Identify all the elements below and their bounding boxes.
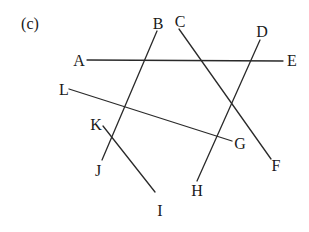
segment-cf: [179, 29, 271, 159]
point-label-j: J: [95, 162, 101, 179]
point-label-h: H: [191, 182, 203, 199]
point-label-i: I: [157, 202, 162, 219]
point-label-d: D: [256, 23, 268, 40]
segment-ae: [87, 60, 283, 61]
panel-label: (c): [21, 15, 39, 33]
point-label-e: E: [287, 52, 297, 69]
point-label-k: K: [90, 116, 102, 133]
line-segments-diagram: (c) A B C D E F G H I J K L: [0, 0, 309, 232]
point-label-g: G: [234, 135, 246, 152]
segment-ki: [103, 126, 155, 192]
point-label-f: F: [272, 157, 281, 174]
point-label-l: L: [59, 81, 69, 98]
point-label-b: B: [153, 15, 164, 32]
point-label-a: A: [73, 52, 85, 69]
segment-lg: [69, 89, 232, 141]
point-label-c: C: [175, 13, 186, 30]
segment-bj: [102, 31, 157, 160]
